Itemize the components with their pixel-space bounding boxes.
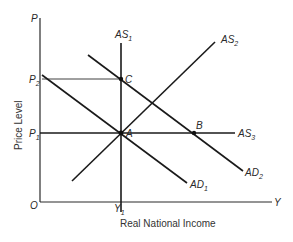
y1-label: Y1: [114, 203, 125, 216]
point-b-marker: [192, 131, 196, 135]
point-a-label: A: [125, 128, 133, 139]
x-axis-title: Real National Income: [120, 218, 216, 229]
ad2-label: AD2: [244, 167, 263, 180]
point-b-label: B: [196, 120, 203, 131]
ad2-curve: [88, 55, 243, 171]
as-ad-diagram: P Y O P2 P1 Y1 AS1 AS2 AS3 AD1 AD2 C A B…: [0, 0, 293, 242]
point-a-marker: [119, 131, 124, 136]
as2-curve: [72, 42, 215, 181]
x-axis-letter: Y: [274, 197, 282, 208]
point-c-marker: [119, 77, 123, 81]
point-c-label: C: [125, 74, 133, 85]
y-axis-title: Price Level: [13, 101, 24, 150]
origin-letter: O: [30, 200, 38, 211]
p1-label: P1: [29, 128, 40, 141]
y-axis-letter: P: [31, 13, 38, 24]
as2-label: AS2: [220, 34, 238, 47]
diagram-canvas: P Y O P2 P1 Y1 AS1 AS2 AS3 AD1 AD2 C A B…: [0, 0, 293, 242]
as3-label: AS3: [237, 128, 255, 141]
as1-label: AS1: [114, 29, 132, 42]
ad1-label: AD1: [189, 179, 208, 192]
p2-label: P2: [29, 74, 40, 87]
